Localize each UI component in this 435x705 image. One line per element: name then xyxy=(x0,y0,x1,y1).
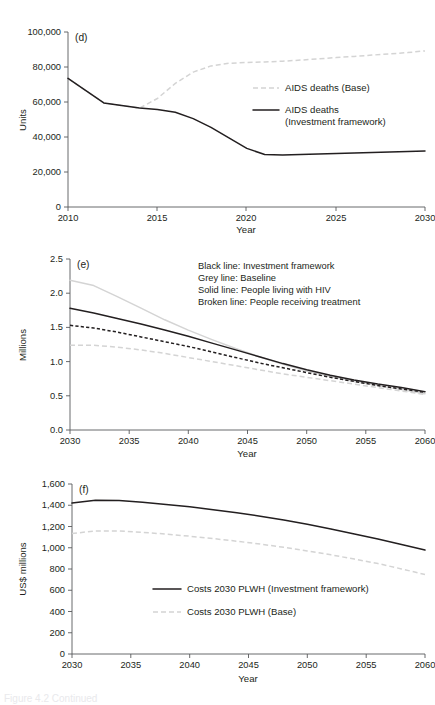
chart-f-legend-label-investment: Costs 2030 PLWH (Investment framework) xyxy=(187,583,369,594)
chart-e-ytick-0: 0.0 xyxy=(50,425,63,435)
chart-f-xtick-6: 2060 xyxy=(415,660,435,670)
chart-d-xtick-0: 2010 xyxy=(58,213,79,223)
chart-f-ytick-5: 1,000 xyxy=(42,543,65,553)
chart-d-legend-label-base: AIDS deaths (Base) xyxy=(285,82,370,93)
chart-d-legend-label-investment-2: (Investment framework) xyxy=(285,116,386,127)
chart-panel-e-content: 0.0 0.5 1.0 1.5 2.0 2.5 2030 2035 2040 2… xyxy=(0,233,435,465)
chart-d-x-ticks: 2010 2015 2020 2025 2030 xyxy=(58,207,435,223)
chart-d-xtick-1: 2015 xyxy=(147,213,168,223)
chart-e-y-ticks: 0.0 0.5 1.0 1.5 2.0 2.5 xyxy=(50,254,70,435)
chart-e-ytick-3: 1.5 xyxy=(50,322,63,332)
chart-e-xtick-5: 2055 xyxy=(355,436,376,446)
chart-e-ytick-5: 2.5 xyxy=(50,254,63,264)
chart-panel-f: 0 200 400 600 800 1,000 1,200 1,400 1,60… xyxy=(0,462,435,690)
chart-d-ytick-2: 40,000 xyxy=(33,132,61,142)
chart-f-xtick-3: 2045 xyxy=(238,660,259,670)
chart-f-xtick-1: 2035 xyxy=(120,660,141,670)
chart-d-xtick-4: 2030 xyxy=(415,213,435,223)
chart-d-svg: 0 20,000 40,000 60,000 80,000 100,000 20… xyxy=(0,0,435,235)
chart-d-ytick-4: 80,000 xyxy=(33,62,61,72)
chart-e-note-1: Grey line: Baseline xyxy=(198,273,276,283)
chart-f-ytick-8: 1,600 xyxy=(42,479,65,489)
chart-e-ytick-2: 1.0 xyxy=(50,357,63,367)
chart-f-ytick-4: 800 xyxy=(49,564,65,574)
chart-f-xtick-5: 2055 xyxy=(356,660,377,670)
chart-e-xlabel: Year xyxy=(237,448,257,459)
chart-e-svg: 0.0 0.5 1.0 1.5 2.0 2.5 2030 2035 2040 2… xyxy=(0,233,435,465)
chart-e-xtick-6: 2060 xyxy=(415,436,435,446)
chart-e-ytick-4: 2.0 xyxy=(50,288,63,298)
chart-f-ytick-3: 600 xyxy=(49,585,65,595)
chart-d-ytick-3: 60,000 xyxy=(33,97,61,107)
chart-d-ylabel: Units xyxy=(17,109,28,131)
chart-d-panel-letter: (d) xyxy=(75,32,87,43)
chart-f-panel-letter: (f) xyxy=(79,484,89,495)
chart-f-svg: 0 200 400 600 800 1,000 1,200 1,400 1,60… xyxy=(0,462,435,690)
chart-e-note-0: Black line: Investment framework xyxy=(198,261,335,271)
chart-d-xtick-2: 2020 xyxy=(236,213,257,223)
chart-f-xlabel: Year xyxy=(238,673,258,684)
chart-e-series-plwh-investment xyxy=(70,308,425,392)
chart-e-xtick-4: 2050 xyxy=(296,436,317,446)
chart-f-ytick-1: 200 xyxy=(49,628,65,638)
chart-d-legend: AIDS deaths (Base) AIDS deaths (Investme… xyxy=(253,82,386,127)
chart-e-x-ticks: 2030 2035 2040 2045 2050 2055 2060 xyxy=(60,430,435,446)
chart-e-notes: Black line: Investment framework Grey li… xyxy=(198,261,361,307)
chart-f-x-ticks: 2030 2035 2040 2045 2050 2055 2060 xyxy=(62,654,435,670)
chart-f-ylabel: US$ millions xyxy=(17,542,28,596)
chart-f-legend-label-base: Costs 2030 PLWH (Base) xyxy=(187,606,296,617)
chart-f-ytick-6: 1,200 xyxy=(42,522,65,532)
chart-e-note-3: Broken line: People receiving treatment xyxy=(198,297,361,307)
chart-d-xtick-3: 2025 xyxy=(326,213,347,223)
chart-e-ylabel: Millions xyxy=(17,329,28,361)
figure-caption-fragment: Figure 4.2 Continued xyxy=(4,692,334,705)
chart-d-y-ticks: 0 20,000 40,000 60,000 80,000 100,000 xyxy=(27,27,68,212)
chart-f-ytick-2: 400 xyxy=(49,607,65,617)
chart-f-y-ticks: 0 200 400 600 800 1,000 1,200 1,400 1,60… xyxy=(42,479,72,659)
chart-e-panel-letter: (e) xyxy=(77,259,89,270)
chart-f-legend: Costs 2030 PLWH (Investment framework) C… xyxy=(153,583,369,617)
chart-e-note-2: Solid line: People living with HIV xyxy=(198,285,332,295)
chart-e-ytick-1: 0.5 xyxy=(50,391,63,401)
chart-f-ytick-0: 0 xyxy=(60,649,65,659)
chart-panel-d: 0 20,000 40,000 60,000 80,000 100,000 20… xyxy=(0,0,435,235)
chart-f-ytick-7: 1,400 xyxy=(42,500,65,510)
chart-f-xtick-2: 2040 xyxy=(179,660,200,670)
chart-d-ytick-5: 100,000 xyxy=(27,27,61,37)
chart-f-xtick-4: 2050 xyxy=(297,660,318,670)
chart-d-legend-label-investment-1: AIDS deaths xyxy=(285,104,339,115)
chart-d-ytick-1: 20,000 xyxy=(33,167,61,177)
chart-e-xtick-0: 2030 xyxy=(60,436,81,446)
chart-d-series-base xyxy=(68,51,425,108)
chart-f-xtick-0: 2030 xyxy=(62,660,83,670)
chart-d-ytick-0: 0 xyxy=(56,202,61,212)
chart-e-xtick-2: 2040 xyxy=(178,436,199,446)
figure-container: 0 20,000 40,000 60,000 80,000 100,000 20… xyxy=(0,0,435,705)
chart-e-xtick-1: 2035 xyxy=(119,436,140,446)
chart-e-xtick-3: 2045 xyxy=(237,436,258,446)
